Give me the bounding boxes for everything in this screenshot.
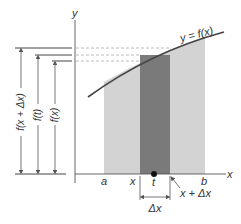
tick-t: t <box>152 176 156 188</box>
tick-x-plus-dx: x + Δx <box>179 187 211 199</box>
dark-rectangle <box>140 55 170 174</box>
dx-label: Δx <box>148 202 162 214</box>
tick-a: a <box>101 175 107 187</box>
label-f-x: f(x) <box>49 108 60 122</box>
tick-x: x <box>129 175 136 187</box>
label-f-x-plus-dx: f(x + Δx) <box>15 93 26 131</box>
diagram-canvas: f(x + Δx) f(t) f(x) y x y = f(x) a x t b… <box>0 0 241 224</box>
label-f-t: f(t) <box>32 109 43 121</box>
pointer-x-plus-dx <box>172 178 180 188</box>
point-t <box>151 171 157 177</box>
tick-b: b <box>201 175 207 187</box>
x-axis-label: x <box>226 168 233 180</box>
y-axis-label: y <box>71 7 79 19</box>
